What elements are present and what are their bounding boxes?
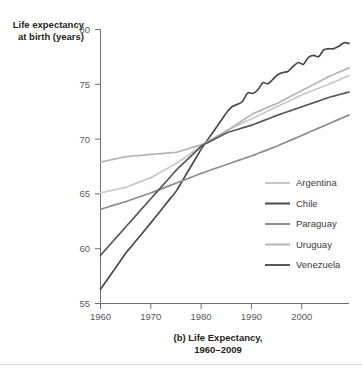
y-tick-label-75: 75 [79,79,90,90]
legend-label-venezuela: Venezuela [296,259,341,270]
y-axis-title-line2: at birth (years) [18,31,84,42]
y-axis-title-line1: Life expectancy [13,19,85,30]
series-layer [101,43,350,290]
x-tick-label-1960: 1960 [90,311,111,322]
y-tick-label-70: 70 [79,134,90,145]
legend-label-argentina: Argentina [296,177,337,188]
line-chart: Life expectancy at birth (years) 80 75 7… [0,0,362,370]
legend-label-paraguay: Paraguay [296,218,337,229]
x-tick-label-1970: 1970 [140,311,161,322]
series-line-paraguay [101,115,350,209]
legend-label-uruguay: Uruguay [296,239,332,250]
y-tick-label-80: 80 [79,24,90,35]
y-tick-label-60: 60 [79,243,90,254]
figure-caption-line1: (b) Life Expectancy, [173,332,262,343]
y-tick-label-55: 55 [79,298,90,309]
x-tick-label-1980: 1980 [191,311,212,322]
x-axis-ticks [101,304,302,310]
legend-label-chile: Chile [296,198,318,209]
chart-legend: ArgentinaChileParaguayUruguayVenezuela [265,177,341,270]
y-tick-label-65: 65 [79,188,90,199]
x-tick-label-1990: 1990 [241,311,262,322]
figure-life-expectancy: Life expectancy at birth (years) 80 75 7… [0,0,362,370]
x-tick-label-2000: 2000 [291,311,312,322]
bottom-divider [0,364,362,365]
figure-caption-line2: 1960–2009 [194,344,242,355]
y-axis-ticks [95,30,101,304]
